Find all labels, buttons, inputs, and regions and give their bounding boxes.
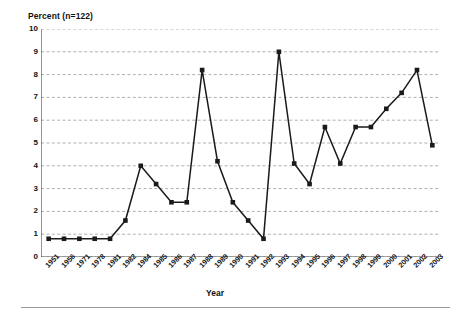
data-point-marker — [215, 159, 220, 164]
footer-divider — [21, 307, 450, 308]
chart-figure: Percent (n=122) 012345678910 19511956197… — [0, 0, 461, 317]
line-chart-svg — [41, 29, 440, 257]
data-point-marker — [353, 125, 358, 130]
data-point-marker — [399, 91, 404, 96]
y-tick-label: 1 — [22, 230, 38, 238]
y-tick-label: 2 — [22, 207, 38, 215]
data-point-marker — [92, 236, 97, 241]
data-point-marker — [415, 68, 420, 73]
data-point-marker — [292, 161, 297, 166]
y-tick-label: 5 — [22, 139, 38, 147]
y-tick-label: 10 — [22, 25, 38, 33]
y-tick-label: 3 — [22, 185, 38, 193]
data-point-marker — [62, 236, 67, 241]
data-point-marker — [231, 200, 236, 205]
y-tick-label: 0 — [22, 253, 38, 261]
data-series-line — [49, 52, 433, 239]
data-point-marker — [261, 236, 266, 241]
data-point-marker — [277, 50, 282, 55]
y-tick-label: 9 — [22, 48, 38, 56]
data-point-marker — [108, 236, 113, 241]
data-point-marker — [138, 164, 143, 169]
y-tick-label: 8 — [22, 71, 38, 79]
data-point-marker — [154, 182, 159, 187]
data-point-marker — [338, 161, 343, 166]
data-point-marker — [384, 107, 389, 112]
data-point-marker — [200, 68, 205, 73]
data-point-marker — [184, 200, 189, 205]
y-tick-label: 6 — [22, 116, 38, 124]
y-axis-tick-labels: 012345678910 — [18, 29, 38, 257]
data-point-marker — [430, 143, 435, 148]
data-point-marker — [369, 125, 374, 130]
data-point-marker — [46, 236, 51, 241]
data-point-marker — [77, 236, 82, 241]
y-axis-caption: Percent (n=122) — [28, 11, 93, 21]
y-tick-label: 4 — [22, 162, 38, 170]
data-point-marker — [323, 125, 328, 130]
y-tick-label: 7 — [22, 93, 38, 101]
data-point-marker — [307, 182, 312, 187]
data-point-marker — [246, 218, 251, 223]
data-point-marker — [123, 218, 128, 223]
x-axis-caption: Year — [0, 288, 430, 298]
data-point-marker — [169, 200, 174, 205]
plot-area — [41, 29, 440, 257]
